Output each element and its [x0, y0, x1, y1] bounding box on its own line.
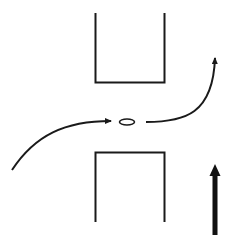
thick-up-arrow-icon	[210, 164, 221, 235]
diagram-canvas	[0, 0, 235, 246]
outgoing-path-arrow	[146, 58, 215, 122]
top-block	[96, 13, 165, 83]
bottom-block	[96, 153, 165, 223]
particle-ellipse	[120, 119, 135, 125]
